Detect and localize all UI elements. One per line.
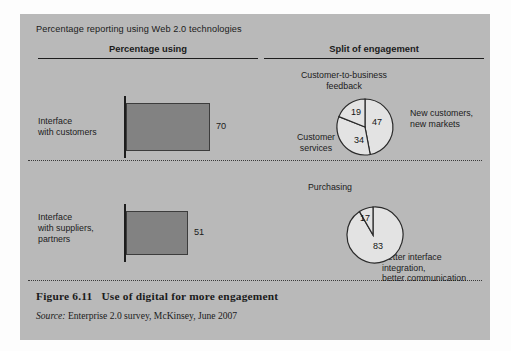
bar-label-line: with customers — [38, 127, 120, 138]
pie-label-line: New customers, — [410, 108, 490, 119]
pie-label-line: better communication — [382, 273, 486, 284]
pie2-value-17: 17 — [360, 213, 370, 223]
bar-label-customers: Interface with customers — [38, 116, 120, 138]
figure-source-label: Source: — [36, 310, 65, 321]
pie1-label-customer-to-business-feedback: Customer-to-business feedback — [276, 70, 412, 91]
pie-label-line: Customer-to-business — [276, 70, 412, 81]
pie2-slice-better-interface — [347, 207, 403, 263]
header-rule-right — [264, 58, 484, 59]
pie1-graphic: 47 34 19 — [334, 96, 396, 158]
pie2-value-83: 83 — [373, 241, 383, 251]
pie-chart-engagement-split-1: Customer-to-business feedback New custom… — [266, 70, 486, 160]
bar-value-customers: 70 — [216, 121, 226, 131]
pie2-label-purchasing: Purchasing — [290, 182, 370, 193]
pie1-value-47: 47 — [372, 117, 382, 127]
figure-caption-number: Figure 6.11 — [36, 290, 92, 302]
pie1-value-19: 19 — [351, 107, 361, 117]
pie-label-line: Purchasing — [290, 182, 370, 193]
pie-chart-engagement-split-2: Purchasing Better interface integration,… — [266, 182, 486, 280]
column-header-percentage-using: Percentage using — [40, 43, 256, 54]
figure-caption-text: Use of digital for more engagement — [101, 290, 278, 302]
bar-label-line: Interface — [38, 116, 120, 127]
bar-label-line: Interface — [38, 212, 120, 223]
bar-value-suppliers: 51 — [194, 227, 204, 237]
bar-suppliers — [126, 211, 188, 255]
pie2-graphic: 17 83 — [342, 204, 404, 266]
figure-source-text: Enterprise 2.0 survey, McKinsey, June 20… — [68, 310, 237, 321]
bar-label-suppliers: Interface with suppliers, partners — [38, 212, 120, 245]
pie1-label-new-customers: New customers, new markets — [410, 108, 490, 129]
bar-row-suppliers: Interface with suppliers, partners 51 — [20, 180, 260, 272]
row-separator-1 — [28, 160, 482, 161]
bar-row-customers: Interface with customers 70 — [20, 74, 260, 158]
pie1-value-34: 34 — [354, 135, 364, 145]
figure-source: Source: Enterprise 2.0 survey, McKinsey,… — [36, 310, 237, 321]
chart-title: Percentage reporting using Web 2.0 techn… — [36, 24, 242, 34]
pie-label-line: feedback — [276, 81, 412, 92]
header-rule-left — [38, 58, 258, 59]
figure-caption: Figure 6.11Use of digital for more engag… — [36, 290, 278, 302]
pie-label-line: new markets — [410, 119, 490, 130]
bar-customers — [126, 103, 210, 151]
bar-label-line: with suppliers, — [38, 223, 120, 234]
column-header-split-of-engagement: Split of engagement — [266, 43, 482, 54]
figure-panel: Percentage reporting using Web 2.0 techn… — [20, 14, 490, 340]
bar-label-line: partners — [38, 234, 120, 245]
